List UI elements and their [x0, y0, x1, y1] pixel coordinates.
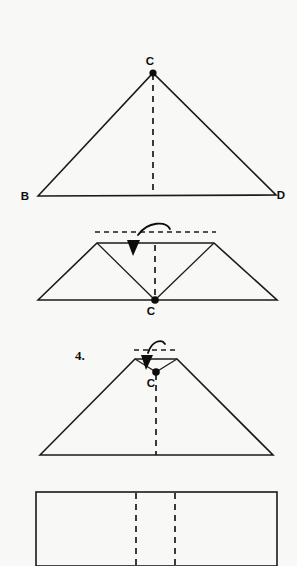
vertex-dot-c-top: [149, 69, 156, 76]
step-number-4: 4.: [75, 348, 85, 363]
label-point-b: B: [21, 190, 29, 202]
label-point-c-bottom: C: [147, 305, 155, 317]
origami-diagram-canvas: B C D C 4. C: [0, 0, 297, 566]
diagram-triangle-bcd: B C D: [21, 55, 285, 202]
vertex-dot-c-bottom: [151, 296, 159, 304]
fold-arrow-head-step2: [127, 240, 140, 256]
trapezoid-outline: [38, 243, 277, 300]
label-point-c-step4: C: [147, 377, 155, 389]
label-point-c-top: C: [146, 55, 154, 67]
instruction-page: B C D C 4. C: [0, 0, 297, 566]
vertex-dot-c-step4: [152, 368, 160, 376]
triangle-outline: [38, 73, 276, 196]
fold-arrow-curve-step4: [148, 341, 165, 353]
rectangle-outline: [36, 492, 277, 566]
diagram-step-4: 4. C: [40, 341, 273, 455]
fold-arrow-head-step4: [141, 355, 153, 370]
diagram-trapezoid-valley: C: [38, 224, 277, 317]
label-point-d: D: [277, 189, 285, 201]
diagram-rectangle: [36, 492, 277, 566]
fold-arrow-curve-step2: [138, 224, 170, 235]
